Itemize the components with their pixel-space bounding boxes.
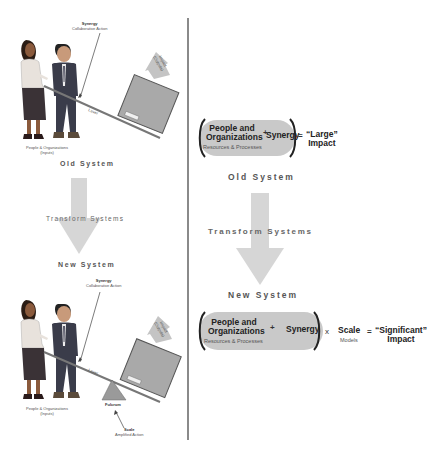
right-transform-arrow-icon bbox=[236, 193, 284, 285]
lever-fulcrum-box-icon bbox=[0, 270, 190, 450]
scale-label: Scale Amplified Action bbox=[115, 428, 143, 437]
left-old-system-label: Old System bbox=[60, 160, 115, 167]
plus-operator: + bbox=[270, 323, 275, 332]
left-transform-label: Transform Systems bbox=[46, 215, 124, 222]
models-sub: Models bbox=[340, 337, 358, 343]
people-organizations-term: People and Organizations bbox=[208, 318, 260, 336]
large-impact-result: “Large” Impact bbox=[306, 130, 338, 148]
people-label: People & Organizations (Inputs) bbox=[26, 146, 68, 155]
synergy-label: Synergy Collaborative Action bbox=[86, 279, 121, 288]
left-paren-icon bbox=[197, 311, 207, 351]
synergy-term: Synergy bbox=[286, 325, 316, 334]
scale-term: Scale bbox=[338, 326, 360, 335]
fulcrum-label: Fulcrum bbox=[105, 403, 121, 408]
people-organizations-term: People and Organizations bbox=[206, 124, 258, 142]
right-new-system-label: New System bbox=[228, 290, 298, 300]
equals-operator: = bbox=[367, 327, 372, 336]
people-label: People & Organizations (Inputs) bbox=[26, 407, 68, 416]
significant-impact-result: “Significant” Impact bbox=[375, 326, 427, 344]
right-transform-label: Transform Systems bbox=[208, 227, 313, 236]
resources-processes-sub: Resources & Processes bbox=[203, 144, 262, 150]
equals-operator: = bbox=[298, 131, 303, 140]
resources-processes-sub: Resources & Processes bbox=[204, 338, 263, 344]
multiply-operator: x bbox=[325, 327, 329, 336]
right-old-system-label: Old System bbox=[228, 172, 295, 182]
synergy-label: Synergy Collaborative Action bbox=[72, 22, 107, 31]
left-new-system-label: New System bbox=[58, 261, 115, 268]
synergy-term-text: Synergy bbox=[266, 131, 294, 140]
